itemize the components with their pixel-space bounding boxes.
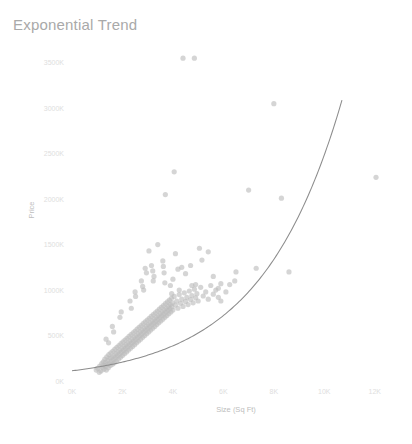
- scatter-point: [187, 288, 192, 293]
- scatter-point: [211, 274, 216, 279]
- scatter-point: [192, 56, 197, 61]
- scatter-point: [117, 315, 122, 320]
- scatter-point: [232, 278, 237, 283]
- scatter-point: [194, 291, 199, 296]
- x-tick-label: 6K: [219, 388, 228, 395]
- x-tick-label: 0K: [68, 388, 77, 395]
- scatter-point: [180, 56, 185, 61]
- scatter-point: [170, 307, 175, 312]
- scatter-point: [223, 289, 228, 294]
- x-tick-label: 4K: [169, 388, 178, 395]
- scatter-point: [161, 270, 166, 275]
- y-tick-label: 1000K: [44, 287, 65, 294]
- scatter-point: [218, 281, 223, 286]
- chart-container: Exponential Trend 0K500K1000K1500K2000K2…: [0, 0, 412, 444]
- scatter-point: [179, 265, 184, 270]
- scatter-point: [160, 258, 165, 263]
- y-tick-label: 2500K: [44, 150, 65, 157]
- scatter-point: [168, 283, 173, 288]
- scatter-point: [141, 287, 146, 292]
- x-tick-label: 8K: [270, 388, 279, 395]
- scatter-points-layer: [94, 56, 379, 375]
- y-tick-label: 2000K: [44, 196, 65, 203]
- x-axis-title: Size (Sq Ft): [216, 405, 256, 414]
- scatter-point: [161, 264, 166, 269]
- scatter-point: [191, 300, 196, 305]
- scatter-point: [177, 287, 182, 292]
- x-axis-tick-labels: 0K2K4K6K8K10K12K: [68, 388, 382, 395]
- y-tick-label: 500K: [48, 332, 65, 339]
- y-tick-label: 1500K: [44, 241, 65, 248]
- scatter-point: [146, 248, 151, 253]
- scatter-point: [208, 283, 213, 288]
- x-tick-label: 2K: [118, 388, 127, 395]
- scatter-point: [150, 268, 155, 273]
- scatter-point: [188, 263, 193, 268]
- scatter-point: [129, 306, 134, 311]
- scatter-point: [246, 187, 251, 192]
- scatter-point: [180, 304, 185, 309]
- scatter-point: [199, 257, 204, 262]
- scatter-point: [175, 306, 180, 311]
- scatter-point: [163, 192, 168, 197]
- scatter-point: [227, 282, 232, 287]
- scatter-point: [279, 196, 284, 201]
- scatter-point: [169, 291, 174, 296]
- scatter-point: [127, 298, 132, 303]
- scatter-point: [203, 289, 208, 294]
- scatter-point: [183, 271, 188, 276]
- scatter-point: [133, 294, 138, 299]
- scatter-point: [162, 280, 167, 285]
- scatter-point: [132, 289, 137, 294]
- scatter-point: [193, 282, 198, 287]
- scatter-point: [119, 309, 124, 314]
- scatter-point: [198, 285, 203, 290]
- scatter-point: [216, 286, 221, 291]
- scatter-point: [185, 302, 190, 307]
- scatter-point: [218, 298, 223, 303]
- scatter-point: [106, 340, 111, 345]
- scatter-point: [151, 274, 156, 279]
- y-axis-tick-labels: 0K500K1000K1500K2000K2500K3000K3500K: [44, 59, 65, 384]
- scatter-point: [286, 269, 291, 274]
- scatter-point: [172, 169, 177, 174]
- scatter-point: [196, 298, 201, 303]
- y-tick-label: 0K: [55, 378, 64, 385]
- scatter-point: [111, 329, 116, 334]
- scatter-point: [149, 263, 154, 268]
- y-tick-label: 3500K: [44, 59, 65, 66]
- scatter-point: [233, 269, 238, 274]
- y-axis-title: Price: [27, 201, 36, 218]
- scatter-point: [173, 251, 178, 256]
- scatter-point: [197, 246, 202, 251]
- scatter-point: [206, 249, 211, 254]
- scatter-point: [151, 278, 156, 283]
- scatter-point: [254, 266, 259, 271]
- scatter-point: [177, 292, 182, 297]
- scatter-point: [155, 242, 160, 247]
- x-tick-label: 12K: [369, 388, 382, 395]
- scatter-point: [143, 266, 148, 271]
- scatter-point: [373, 175, 378, 180]
- scatter-plot-svg: 0K500K1000K1500K2000K2500K3000K3500K 0K2…: [0, 0, 412, 444]
- scatter-point: [271, 101, 276, 106]
- scatter-point: [110, 324, 115, 329]
- scatter-point: [182, 290, 187, 295]
- scatter-point: [170, 277, 175, 282]
- scatter-point: [144, 270, 149, 275]
- scatter-point: [206, 297, 211, 302]
- y-tick-label: 3000K: [44, 105, 65, 112]
- x-tick-label: 10K: [318, 388, 331, 395]
- scatter-point: [139, 278, 144, 283]
